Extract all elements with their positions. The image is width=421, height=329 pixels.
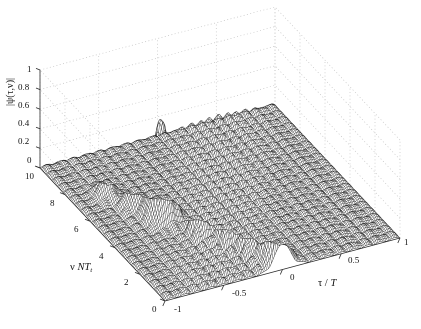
figure-root: |ψ(τ,ν)| 1 0.8 0.6 0.4 0.2 0 10 8 6 4 2 … — [0, 0, 421, 329]
z-axis-label-text: |ψ(τ,ν)| — [4, 92, 15, 106]
y-tick-8: 8 — [50, 199, 55, 208]
z-tick-0_4: 0.4 — [18, 119, 29, 128]
x-tick-0_5: 0.5 — [348, 256, 359, 265]
z-tick-1: 1 — [27, 65, 32, 74]
y-tick-0: 0 — [152, 305, 157, 314]
x-axis-label-den: T — [330, 277, 336, 288]
y-axis-label-nu: ν — [70, 261, 75, 272]
z-tick-0_2: 0.2 — [18, 137, 29, 146]
y-tick-2: 2 — [124, 278, 129, 287]
z-tick-0_6: 0.6 — [18, 101, 29, 110]
y-tick-10: 10 — [25, 172, 34, 181]
x-tick-1: 1 — [404, 238, 409, 247]
y-tick-6: 6 — [74, 225, 79, 234]
y-axis-label: ν NTt — [70, 262, 92, 274]
y-tick-4: 4 — [99, 252, 104, 261]
z-tick-0: 0 — [27, 156, 32, 165]
x-tick-minus1: -1 — [174, 305, 182, 314]
z-tick-0_8: 0.8 — [18, 83, 29, 92]
x-tick-0: 0 — [290, 273, 295, 282]
x-axis-label: τ / T — [318, 278, 336, 289]
y-axis-label-subscript: t — [90, 266, 92, 274]
x-tick-minus0_5: -0.5 — [232, 289, 246, 298]
surface-plot-canvas — [0, 0, 421, 329]
